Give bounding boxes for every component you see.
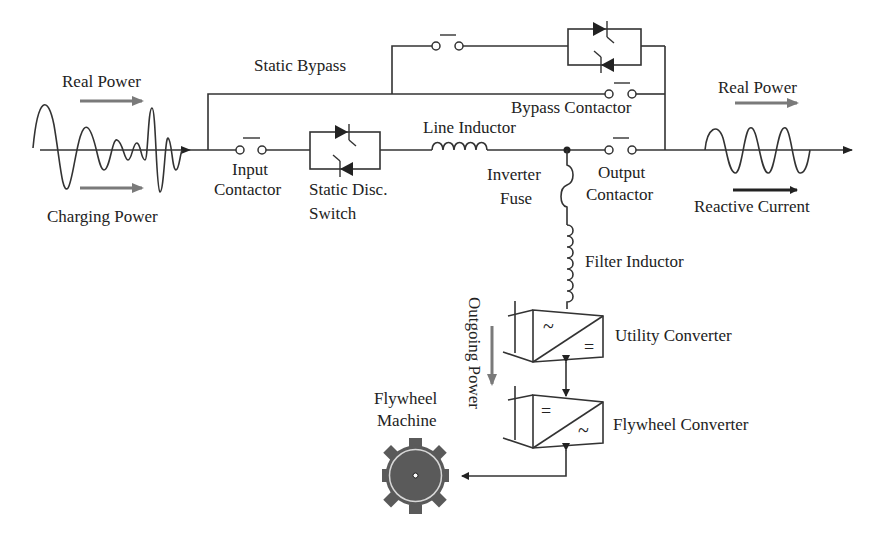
real-power-in-label: Real Power: [62, 72, 141, 91]
utility-converter: ~ =: [503, 301, 603, 362]
flywheel-converter: = ~: [503, 386, 603, 448]
flywheel-machine-label-2: Machine: [377, 411, 436, 430]
input-waveform: [33, 105, 190, 192]
line-inductor: [432, 143, 487, 151]
static-bypass-switch: [568, 21, 641, 73]
flywheel-converter-label: Flywheel Converter: [613, 415, 749, 434]
input-contactor-label-1: Input: [232, 160, 268, 179]
flywheel-converter-dc-symbol: =: [541, 401, 551, 421]
inverter-fuse-label-1: Inverter: [487, 165, 541, 184]
static-disconnect-switch: [310, 124, 380, 177]
inverter-fuse-label-2: Fuse: [500, 189, 532, 208]
bypass-contactor-label: Bypass Contactor: [511, 98, 632, 117]
inverter-fuse: [561, 150, 573, 225]
input-contactor: [236, 138, 266, 154]
filter-inductor-label: Filter Inductor: [585, 252, 684, 271]
filter-inductor: [567, 225, 573, 309]
output-contactor-label-1: Output: [598, 163, 646, 182]
flywheel-ups-diagram: Real Power Charging Power Input Contacto…: [0, 0, 877, 536]
outgoing-power-label: Outgoing Power: [465, 297, 484, 409]
real-power-out-label: Real Power: [718, 78, 797, 97]
flywheel-machine-icon: [382, 438, 449, 514]
output-contactor-label-2: Contactor: [586, 185, 653, 204]
output-contactor: [605, 138, 636, 154]
static-disc-label-1: Static Disc.: [309, 180, 387, 199]
line-inductor-label: Line Inductor: [423, 118, 516, 137]
input-contactor-label-2: Contactor: [214, 180, 281, 199]
utility-converter-label: Utility Converter: [615, 326, 732, 345]
static-disc-label-2: Switch: [309, 204, 357, 223]
reactive-current-label: Reactive Current: [694, 197, 810, 216]
flywheel-converter-ac-symbol: ~: [578, 419, 589, 441]
static-bypass-label: Static Bypass: [254, 56, 346, 75]
flywheel-machine-label-1: Flywheel: [374, 389, 438, 408]
utility-converter-dc-symbol: =: [584, 337, 594, 357]
utility-converter-ac-symbol: ~: [543, 315, 554, 337]
charging-power-label: Charging Power: [47, 207, 158, 226]
flywheel-link: [462, 450, 566, 476]
